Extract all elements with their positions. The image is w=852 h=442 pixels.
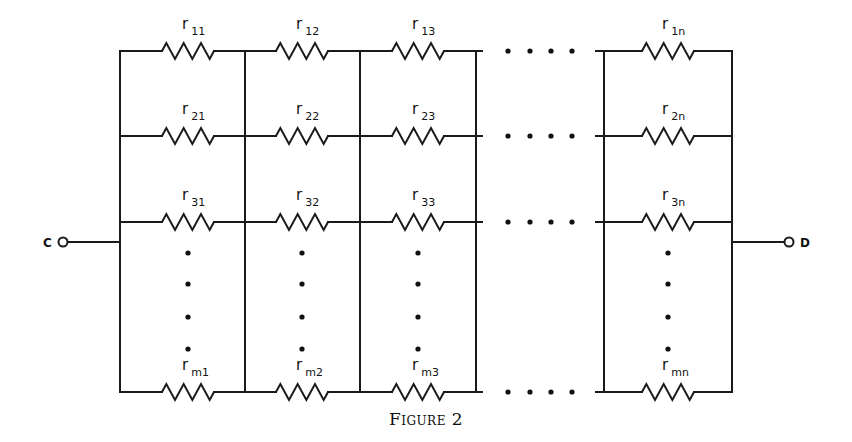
circuit-diagram: r11r12r13r1nr21r22r23r2nr31r32r33r3nrm1r… [0, 0, 852, 442]
resistor-label-r1n: r1n [662, 15, 685, 38]
ellipsis-dot [527, 389, 532, 394]
resistor-r1n-icon [642, 43, 694, 59]
terminal-d-label: D [800, 236, 810, 250]
ellipsis-dot [548, 48, 553, 53]
terminal-d-icon [785, 238, 794, 247]
terminal-c-label: C [43, 236, 52, 250]
ellipsis-dot [505, 133, 510, 138]
resistor-label-r33: r33 [412, 186, 435, 209]
resistor-label-r11: r11 [182, 15, 205, 38]
resistor-r31-icon [162, 214, 214, 230]
ellipsis-dot [415, 281, 420, 286]
resistor-label-r2n: r2n [662, 100, 685, 123]
ellipsis-dot [569, 133, 574, 138]
resistor-label-r3n: r3n [662, 186, 685, 209]
resistor-r12-icon [276, 43, 328, 59]
resistor-r11-icon [162, 43, 214, 59]
resistor-r2n-icon [642, 128, 694, 144]
resistor-r33-icon [392, 214, 444, 230]
ellipsis-dot [548, 389, 553, 394]
ellipsis-dot [185, 281, 190, 286]
resistor-label-r31: r31 [182, 186, 205, 209]
resistor-label-r23: r23 [412, 100, 435, 123]
resistor-r23-icon [392, 128, 444, 144]
ellipsis-dot [569, 219, 574, 224]
ellipsis-dot [299, 250, 304, 255]
resistor-label-r13: r13 [412, 15, 435, 38]
ellipsis-dot [548, 219, 553, 224]
resistor-label-rm1: rm1 [182, 356, 209, 379]
ellipsis-dot [527, 133, 532, 138]
ellipsis-dot [569, 389, 574, 394]
ellipsis-dot [415, 314, 420, 319]
ellipsis-dot [299, 346, 304, 351]
ellipsis-dot [665, 346, 670, 351]
resistor-rmn-icon [642, 384, 694, 400]
ellipsis-dot [415, 250, 420, 255]
figure-caption: Figure 2 [0, 409, 852, 429]
resistor-label-r32: r32 [296, 186, 319, 209]
ellipsis-dot [569, 48, 574, 53]
resistor-r3n-icon [642, 214, 694, 230]
resistor-rm2-icon [276, 384, 328, 400]
ellipsis-dot [185, 250, 190, 255]
resistor-r13-icon [392, 43, 444, 59]
resistor-r22-icon [276, 128, 328, 144]
ellipsis-dot [505, 219, 510, 224]
ellipsis-dot [299, 281, 304, 286]
ellipsis-dot [548, 133, 553, 138]
resistor-rm1-icon [162, 384, 214, 400]
ellipsis-dot [665, 314, 670, 319]
ellipsis-dot [185, 346, 190, 351]
resistor-label-rm2: rm2 [296, 356, 323, 379]
resistor-label-rmn: rmn [662, 356, 689, 379]
ellipsis-dot [527, 48, 532, 53]
resistor-label-r22: r22 [296, 100, 319, 123]
resistor-label-rm3: rm3 [412, 356, 439, 379]
ellipsis-dot [527, 219, 532, 224]
terminal-c-icon [59, 238, 68, 247]
resistor-r21-icon [162, 128, 214, 144]
ellipsis-dot [505, 389, 510, 394]
ellipsis-dot [665, 250, 670, 255]
resistor-r32-icon [276, 214, 328, 230]
resistor-label-r12: r12 [296, 15, 319, 38]
ellipsis-dot [665, 281, 670, 286]
resistor-rm3-icon [392, 384, 444, 400]
ellipsis-dot [185, 314, 190, 319]
ellipsis-dot [505, 48, 510, 53]
ellipsis-dot [415, 346, 420, 351]
figure-2-resistor-network: r11r12r13r1nr21r22r23r2nr31r32r33r3nrm1r… [0, 0, 852, 442]
resistor-label-r21: r21 [182, 100, 205, 123]
ellipsis-dot [299, 314, 304, 319]
